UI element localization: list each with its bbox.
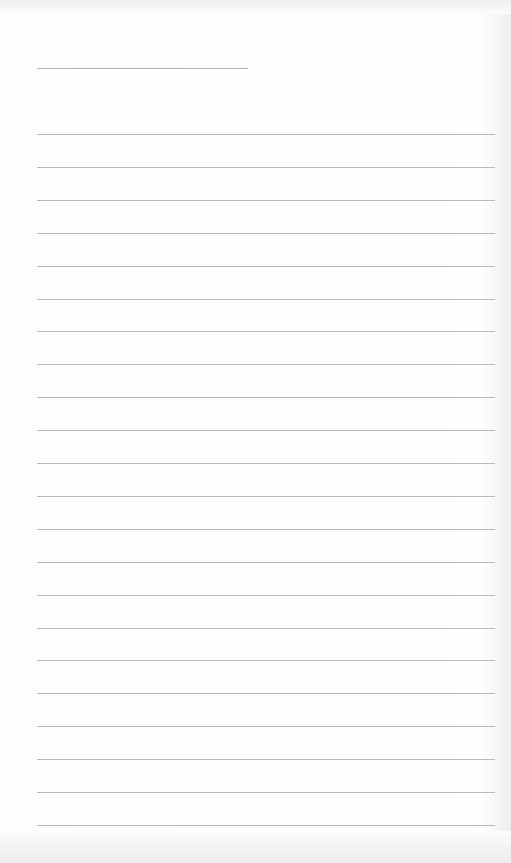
writing-line [37, 726, 495, 727]
writing-line [37, 759, 495, 760]
writing-line [37, 463, 495, 464]
writing-line [37, 595, 495, 596]
writing-line [37, 660, 495, 661]
writing-line [37, 299, 495, 300]
writing-line [37, 430, 495, 431]
writing-line [37, 825, 495, 826]
writing-line [37, 266, 495, 267]
notebook-page [0, 0, 511, 863]
title-writing-line [37, 68, 248, 69]
writing-line [37, 562, 495, 563]
writing-line [37, 200, 495, 201]
writing-line [37, 496, 495, 497]
writing-line [37, 529, 495, 530]
writing-line [37, 233, 495, 234]
writing-line [37, 628, 495, 629]
writing-line [37, 364, 495, 365]
writing-line [37, 693, 495, 694]
writing-line [37, 331, 495, 332]
writing-line [37, 792, 495, 793]
writing-line [37, 397, 495, 398]
writing-line [37, 134, 495, 135]
writing-line [37, 167, 495, 168]
